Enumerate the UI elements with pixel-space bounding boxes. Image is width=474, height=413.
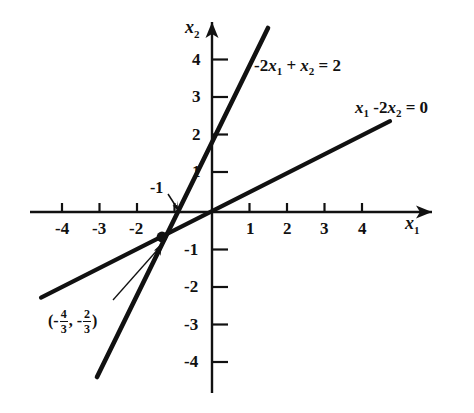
point-label-close: ) (92, 313, 97, 329)
y-axis-label-var: x (185, 17, 194, 37)
y-tick-label--2: -2 (184, 278, 198, 295)
coordinate-plane (0, 0, 474, 413)
y-axis-label: x2 (185, 18, 200, 40)
x-neg-one-callout-label: -1 (150, 180, 163, 196)
point-label-open: (- (48, 313, 59, 329)
y-tick-label--3: -3 (184, 316, 198, 333)
x-tick-label--4: -4 (55, 220, 69, 237)
x-tick-label-3: 3 (320, 220, 329, 237)
x-axis-label-var: x (405, 213, 414, 233)
y-tick-label--1: -1 (184, 241, 198, 258)
line-steep (97, 28, 268, 377)
y-tick-label-2: 2 (192, 126, 201, 143)
eq-shallow-var1: x (355, 98, 364, 117)
fraction-four-thirds: 4 3 (60, 308, 68, 335)
eq-steep-var2: x (300, 56, 309, 75)
eq-steep-lead: -2 (254, 56, 268, 75)
x-tick-label-1: 1 (246, 220, 255, 237)
fraction-four-thirds-denominator: 3 (60, 322, 68, 335)
intersection-point-label: (- 4 3 , - 2 3 ) (48, 307, 97, 334)
x-tick-label--2: -2 (129, 220, 143, 237)
fraction-two-thirds-numerator: 2 (83, 308, 91, 322)
y-axis-label-sub: 2 (194, 28, 200, 40)
graph-figure: x2 x1 -4 -3 -2 1 2 3 4 -1 4 3 2 1 -1 -2 … (0, 0, 474, 413)
x-axis-label: x1 (405, 214, 420, 236)
x-tick-label-4: 4 (358, 220, 367, 237)
x-tick-label--3: -3 (92, 220, 106, 237)
line-shallow (41, 121, 390, 297)
eq-steep-mid: + (282, 56, 300, 75)
eq-steep-var1: x (268, 56, 277, 75)
fraction-four-thirds-numerator: 4 (60, 308, 68, 322)
x-axis-label-sub: 1 (414, 224, 420, 236)
eq-steep-tail: = 2 (314, 56, 341, 75)
equation-label-steep: -2x1 + x2 = 2 (254, 57, 341, 77)
x-tick-label-2: 2 (283, 220, 292, 237)
fraction-two-thirds: 2 3 (83, 308, 91, 335)
y-tick-label--4: -4 (184, 353, 198, 370)
equation-label-shallow: x1 -2x2 = 0 (355, 99, 428, 119)
eq-shallow-tail: = 0 (401, 98, 428, 117)
y-tick-label-3: 3 (192, 88, 201, 105)
point-label-comma: , - (69, 313, 82, 329)
y-tick-label-1: 1 (192, 163, 201, 180)
fraction-two-thirds-denominator: 3 (83, 322, 91, 335)
eq-shallow-var2: x (387, 98, 396, 117)
intersection-dot (157, 232, 168, 243)
eq-shallow-mid: -2 (369, 98, 387, 117)
y-tick-label-4: 4 (192, 51, 201, 68)
